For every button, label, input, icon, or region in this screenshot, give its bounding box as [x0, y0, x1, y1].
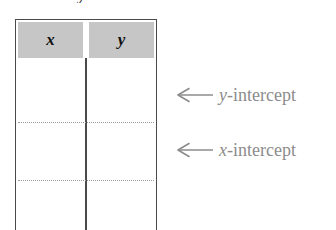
- annotation-variable-y: y: [219, 85, 227, 105]
- annotation-label-y-intercept: y-intercept: [219, 84, 296, 106]
- left-arrow-icon: [176, 142, 214, 158]
- table-header-row: x y: [18, 22, 154, 58]
- clipped-caption-fragment: y: [62, 0, 102, 3]
- annotation-y-intercept: y-intercept: [176, 84, 296, 106]
- annotation-suffix-y: -intercept: [227, 85, 296, 105]
- annotation-suffix-x: -intercept: [227, 140, 296, 160]
- annotation-x-intercept: x-intercept: [176, 139, 296, 161]
- annotation-variable-x: x: [219, 140, 227, 160]
- left-arrow-icon: [176, 87, 214, 103]
- column-divider: [85, 58, 87, 230]
- column-header-x: x: [18, 22, 83, 58]
- annotation-label-x-intercept: x-intercept: [219, 139, 296, 161]
- intercepts-table-figure: y x y y-intercept x-intercept: [0, 0, 336, 230]
- row-rule-y-intercept: [18, 122, 154, 123]
- column-header-y: y: [89, 22, 154, 58]
- row-rule-x-intercept: [18, 180, 154, 181]
